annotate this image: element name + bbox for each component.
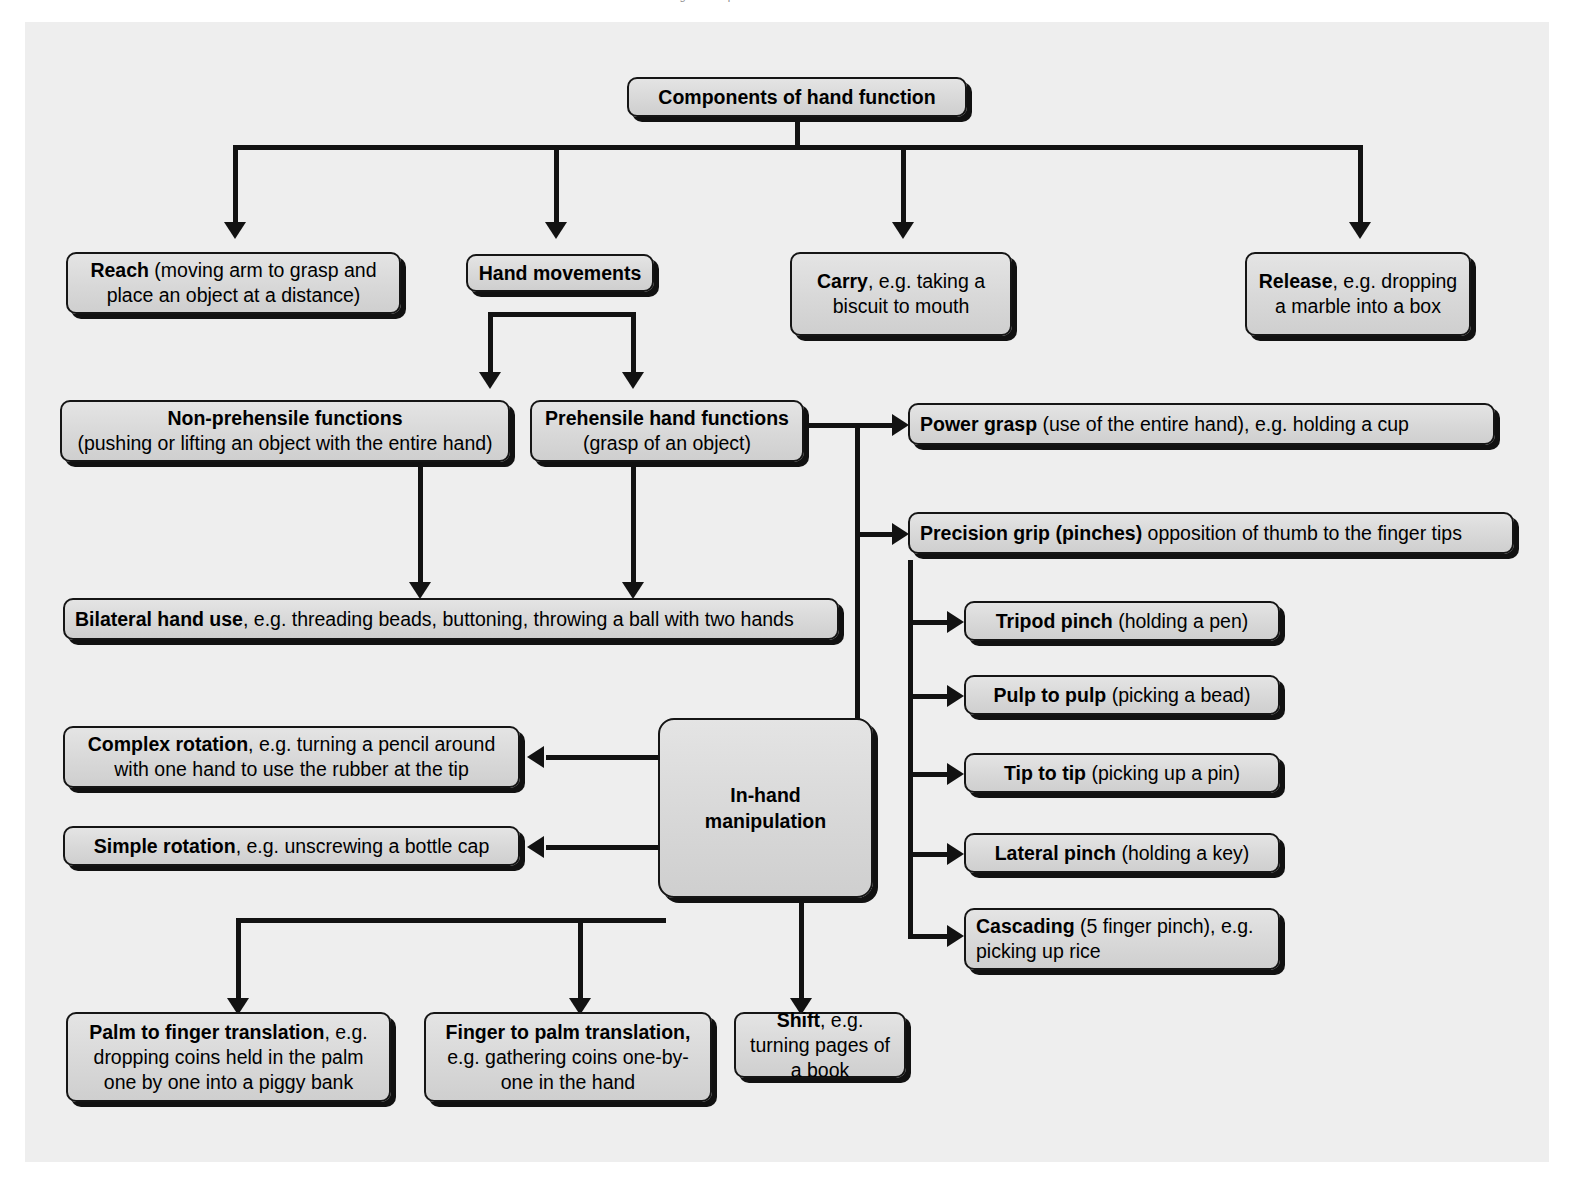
arrowhead-bilateral-left [409,582,431,599]
node-hand-movements[interactable]: Hand movements [466,254,654,292]
node-label: Finger to palm translation, e.g. gatheri… [436,1020,700,1095]
node-label: In-hand manipulation [670,782,861,834]
node-precision-grip[interactable]: Precision grip (pinches) opposition of t… [908,512,1514,554]
arrowhead-carry [892,222,914,239]
node-label: Complex rotation, e.g. turning a pencil … [75,732,508,782]
connector-hm-bus [488,312,636,317]
arrowhead-pulp [947,685,964,707]
node-release[interactable]: Release, e.g. dropping a marble into a b… [1245,252,1471,336]
cut-off-caption: Figure Components of hand function hand … [0,0,1573,22]
node-label: Palm to finger translation, e.g. droppin… [78,1020,379,1095]
diagram-page: Figure Components of hand function hand … [0,0,1573,1184]
node-label: Tripod pinch (holding a pen) [976,609,1268,634]
node-components-of-hand-function[interactable]: Components of hand function [627,77,967,117]
node-shift[interactable]: Shift, e.g. turning pages of a book [734,1012,906,1078]
node-label: Bilateral hand use, e.g. threading beads… [75,607,827,632]
node-power-grasp[interactable]: Power grasp (use of the entire hand), e.… [908,403,1495,445]
node-bilateral-hand-use[interactable]: Bilateral hand use, e.g. threading beads… [63,598,839,640]
connector-bus-to-palm [236,918,241,1000]
node-in-hand-manipulation[interactable]: In-hand manipulation [658,718,873,898]
node-label: Cascading (5 finger pinch), e.g. picking… [976,914,1268,964]
node-label: Simple rotation, e.g. unscrewing a bottl… [75,834,508,859]
arrowhead-hand-movements [545,222,567,239]
node-simple-rotation[interactable]: Simple rotation, e.g. unscrewing a bottl… [63,826,520,866]
node-label: Non-prehensile functions(pushing or lift… [72,406,498,456]
node-non-prehensile-functions[interactable]: Non-prehensile functions(pushing or lift… [60,400,510,462]
node-label: Lateral pinch (holding a key) [976,841,1268,866]
connector-inhand-bottom-bus [236,918,666,923]
connector-inhand-to-simple [546,845,662,850]
node-label: Hand movements [478,261,642,286]
arrowhead-complex-rotation [527,746,544,768]
connector-nonprehensile-to-bilateral [418,462,423,584]
node-palm-to-finger-translation[interactable]: Palm to finger translation, e.g. droppin… [66,1012,391,1102]
connector-prehensile-to-bilateral [631,462,636,584]
connector-hm-to-prehensile [631,312,636,374]
diagram-canvas [25,22,1549,1162]
arrowhead-release [1349,222,1371,239]
arrowhead-simple-rotation [527,836,544,858]
node-prehensile-hand-functions[interactable]: Prehensile hand functions(grasp of an ob… [530,400,804,462]
node-lateral-pinch[interactable]: Lateral pinch (holding a key) [964,833,1280,873]
arrowhead-prehensile [622,372,644,389]
node-tripod-pinch[interactable]: Tripod pinch (holding a pen) [964,601,1280,641]
connector-bus-to-finger [578,918,583,1000]
node-reach[interactable]: Reach (moving arm to grasp and place an … [66,252,401,314]
node-label: Shift, e.g. turning pages of a book [746,1008,894,1083]
arrowhead-precision-grip [892,523,909,545]
node-tip-to-tip[interactable]: Tip to tip (picking up a pin) [964,753,1280,793]
node-cascading[interactable]: Cascading (5 finger pinch), e.g. picking… [964,908,1280,970]
node-pulp-to-pulp[interactable]: Pulp to pulp (picking a bead) [964,675,1280,715]
node-label: Tip to tip (picking up a pin) [976,761,1268,786]
node-label: Pulp to pulp (picking a bead) [976,683,1268,708]
node-complex-rotation[interactable]: Complex rotation, e.g. turning a pencil … [63,726,520,788]
arrowhead-nonprehensile [479,372,501,389]
connector-bus-to-reach [233,145,238,224]
connector-inhand-to-shift [799,898,804,1000]
connector-hm-to-nonprehensile [488,312,493,374]
connector-main-bus [233,145,1363,150]
arrowhead-bilateral-right [622,582,644,599]
connector-bus-to-hand-movements [554,145,559,224]
connector-bus-to-release [1358,145,1363,224]
node-label: Components of hand function [639,85,955,110]
connector-inhand-to-complex [546,755,662,760]
node-label: Precision grip (pinches) opposition of t… [920,521,1502,546]
arrowhead-reach [224,222,246,239]
arrowhead-cascading [947,925,964,947]
node-carry[interactable]: Carry, e.g. taking a biscuit to mouth [790,252,1012,336]
arrowhead-lateral [947,843,964,865]
node-finger-to-palm-translation[interactable]: Finger to palm translation, e.g. gatheri… [424,1012,712,1102]
node-label: Power grasp (use of the entire hand), e.… [920,412,1483,437]
connector-title-stem [795,116,800,148]
arrowhead-tip [947,763,964,785]
connector-prehensile-spine [855,423,860,733]
arrowhead-tripod [947,611,964,633]
node-label: Release, e.g. dropping a marble into a b… [1257,269,1459,319]
connector-precision-spine [908,560,913,938]
node-label: Prehensile hand functions(grasp of an ob… [542,406,792,456]
arrowhead-power-grasp [892,414,909,436]
connector-bus-to-carry [901,145,906,224]
node-label: Reach (moving arm to grasp and place an … [78,258,389,308]
connector-prehensile-out [804,423,860,428]
node-label: Carry, e.g. taking a biscuit to mouth [802,269,1000,319]
